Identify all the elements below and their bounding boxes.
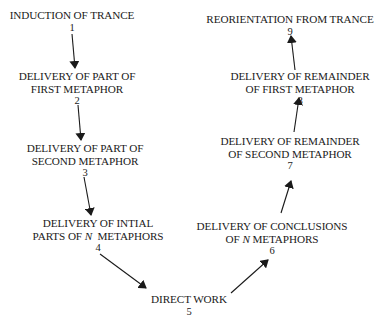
- node-delivery-remainder-first-metaphor: DELIVERY OF REMAINDER OF FIRST METAPHOR …: [230, 70, 369, 107]
- node-induction-of-trance: INDUCTION OF TRANCE 1: [10, 9, 135, 33]
- node-delivery-conclusions-n-metaphors: DELIVERY OF CONCLUSIONS OF N METAPHORS 6: [197, 220, 348, 257]
- arrow-1-to-2: [72, 34, 75, 68]
- node-label: DELIVERY OF REMAINDER: [230, 70, 369, 83]
- node-label: DELIVERY OF PART OF: [19, 70, 136, 83]
- node-label: DIRECT WORK: [151, 293, 227, 306]
- node-number: 8: [230, 95, 369, 107]
- node-number: 3: [27, 167, 144, 179]
- node-delivery-initial-parts-n-metaphors: DELIVERY OF INTIAL PARTS OF N METAPHORS …: [33, 217, 164, 254]
- node-label: DELIVERY OF CONCLUSIONS: [197, 220, 348, 233]
- node-number: 5: [151, 306, 227, 317]
- node-direct-work: DIRECT WORK 5: [151, 293, 227, 317]
- node-label: OF SECOND METAPHOR: [220, 148, 359, 161]
- node-label-line-2: PARTS OF N METAPHORS: [33, 230, 164, 243]
- node-delivery-part-first-metaphor: DELIVERY OF PART OF FIRST METAPHOR 2: [19, 70, 136, 107]
- node-delivery-remainder-second-metaphor: DELIVERY OF REMAINDER OF SECOND METAPHOR…: [220, 135, 359, 172]
- node-number: 1: [10, 22, 135, 34]
- node-label: SECOND METAPHOR: [27, 155, 144, 168]
- node-label: DELIVERY OF PART OF: [27, 142, 144, 155]
- node-label: DELIVERY OF INTIAL: [33, 217, 164, 230]
- node-label-variable: N: [85, 230, 92, 242]
- node-label: DELIVERY OF REMAINDER: [220, 135, 359, 148]
- arrow-8-to-9: [291, 36, 295, 70]
- arrow-2-to-3: [78, 105, 81, 140]
- node-label-part: OF: [226, 233, 240, 245]
- node-number: 4: [33, 242, 164, 254]
- node-number: 2: [19, 95, 136, 107]
- node-label-part: METAPHORS: [97, 230, 163, 242]
- arrow-4-to-5: [100, 254, 146, 288]
- node-label: INDUCTION OF TRANCE: [10, 9, 135, 22]
- arrow-5-to-6: [231, 260, 268, 293]
- node-label-variable: N: [242, 233, 249, 245]
- node-label: OF FIRST METAPHOR: [230, 83, 369, 96]
- node-reorientation-from-trance: REORIENTATION FROM TRANCE 9: [206, 13, 373, 37]
- node-label-part: METAPHORS: [252, 233, 318, 245]
- node-label-part: PARTS OF: [33, 230, 82, 242]
- arrow-3-to-4: [84, 177, 91, 215]
- node-number: 9: [206, 26, 373, 38]
- node-number: 7: [220, 160, 359, 172]
- node-delivery-part-second-metaphor: DELIVERY OF PART OF SECOND METAPHOR 3: [27, 142, 144, 179]
- node-label: FIRST METAPHOR: [19, 83, 136, 96]
- node-number: 6: [197, 245, 348, 257]
- arrow-6-to-7: [281, 181, 291, 213]
- node-label: REORIENTATION FROM TRANCE: [206, 13, 373, 26]
- node-label-line-2: OF N METAPHORS: [197, 233, 348, 246]
